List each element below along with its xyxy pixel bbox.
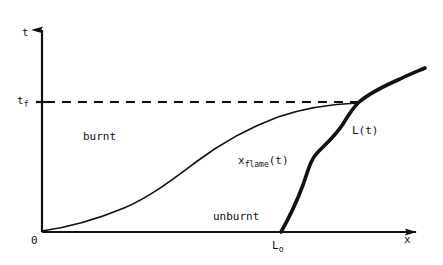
x-flame-argument: (t) <box>269 154 289 167</box>
x-flame-subscript: flame <box>245 160 269 169</box>
x-flame-base: x <box>238 154 245 167</box>
region-label-burnt: burnt <box>83 131 116 142</box>
origin-label: 0 <box>31 235 38 246</box>
t-axis-label: t <box>22 27 29 38</box>
x-axis-label: x <box>404 234 411 245</box>
L-initial-tick-label: Lo <box>272 240 283 254</box>
t-final-tick-label: tf <box>17 95 28 109</box>
t-final-base: t <box>17 94 24 107</box>
x-flame-curve-label: xflame(t) <box>238 155 289 169</box>
L-t-curve <box>281 68 425 232</box>
L-t-curve-label: L(t) <box>352 125 379 136</box>
L-initial-subscript: o <box>279 245 284 254</box>
t-final-subscript: f <box>24 100 29 109</box>
region-label-unburnt: unburnt <box>213 211 259 222</box>
L-initial-base: L <box>272 239 279 252</box>
flame-propagation-figure: t tf 0 x Lo burnt unburnt xflame(t) L(t) <box>0 0 443 265</box>
